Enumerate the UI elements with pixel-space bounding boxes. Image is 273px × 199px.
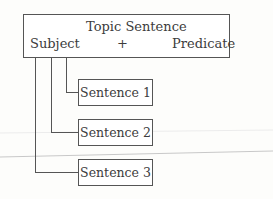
predicate-label: Predicate: [172, 36, 235, 51]
subject-label: Subject: [30, 36, 80, 51]
topic-sentence-title: Topic Sentence: [86, 19, 187, 34]
connector-line-3-h: [35, 172, 78, 173]
connector-line-2: [51, 57, 52, 133]
diagram: Topic Sentence Subject + Predicate Sente…: [0, 0, 273, 199]
sentence-1-box: Sentence 1: [78, 79, 153, 106]
connector-line-1: [66, 57, 67, 93]
connector-line-1-h: [66, 92, 78, 93]
connector-line-3: [35, 57, 36, 173]
sentence-2-box: Sentence 2: [78, 119, 153, 146]
sentence-3-box: Sentence 3: [78, 159, 153, 186]
connector-line-2-h: [51, 132, 78, 133]
plus-sign: +: [117, 36, 128, 51]
